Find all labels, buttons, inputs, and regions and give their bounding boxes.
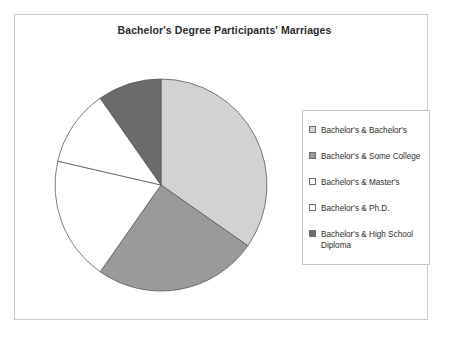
pie-slice-group <box>55 79 267 291</box>
pie-chart <box>54 78 268 292</box>
chart-canvas: Bachelor's Degree Participants' Marriage… <box>0 0 449 338</box>
legend-swatch-icon <box>309 152 316 159</box>
legend-item[interactable]: Bachelor's & High School Diploma <box>303 229 429 251</box>
legend-item-label: Bachelor's & High School Diploma <box>321 229 413 251</box>
legend-swatch-icon <box>309 230 316 237</box>
chart-legend: Bachelor's & Bachelor'sBachelor's & Some… <box>302 110 430 265</box>
chart-title: Bachelor's Degree Participants' Marriage… <box>0 24 449 36</box>
legend-item-label: Bachelor's & Some College <box>321 151 420 162</box>
legend-item[interactable]: Bachelor's & Master's <box>303 177 429 188</box>
legend-item-list: Bachelor's & Bachelor'sBachelor's & Some… <box>303 111 429 264</box>
legend-item[interactable]: Bachelor's & Ph.D. <box>303 203 429 214</box>
legend-swatch-icon <box>309 204 316 211</box>
legend-swatch-icon <box>309 126 316 133</box>
legend-item[interactable]: Bachelor's & Some College <box>303 151 429 162</box>
legend-item[interactable]: Bachelor's & Bachelor's <box>303 125 429 136</box>
legend-item-label: Bachelor's & Ph.D. <box>321 203 389 214</box>
legend-item-label: Bachelor's & Master's <box>321 177 400 188</box>
legend-swatch-icon <box>309 178 316 185</box>
pie-chart-svg <box>54 78 268 292</box>
legend-item-label: Bachelor's & Bachelor's <box>321 125 407 136</box>
